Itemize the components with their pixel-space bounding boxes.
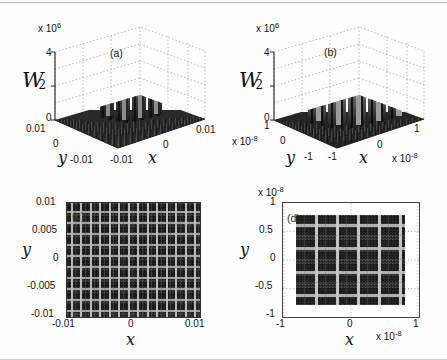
panel-d-y-tick-neg0.5: -0.5 [255,281,272,291]
panel-c-y-tick-neg0.005: -0.005 [27,281,55,291]
panel-a-y-tick-neg0.01: -0.01 [70,155,93,165]
panel-d-y-tick-1: 1 [270,197,276,207]
panel-c-x-axis-label: x [126,332,135,348]
panel-b-x-exponent: x 10-8 [392,152,418,164]
panel-c-density-map [67,203,200,317]
panel-a-plot [0,0,224,180]
panel-c-y-tick-0: 0 [53,253,59,263]
panel-b-y-tick-neg1: -1 [304,152,313,162]
panel-a-y-tick-0.01: 0.01 [26,124,45,134]
panel-d-y-tick-0: 0 [270,253,276,263]
panel-d-axes: (d) [282,202,420,318]
panel-c-y-tick-neg0.01: -0.01 [31,309,54,319]
panel-c: (c) y 0.01 0.005 0 -0.005 -0.01 -0.01 0 … [0,180,224,360]
panel-c-y-tick-0.01: 0.01 [36,197,55,207]
panel-c-y-axis-label: y [22,242,31,258]
panel-d-x-tick-neg1: -1 [276,319,285,329]
panel-c-x-tick-0: 0 [128,319,134,329]
panel-c-x-tick-neg0.01: -0.01 [52,319,75,329]
panel-d: x 10-8 [224,180,447,360]
panel-b-x-axis-label: x [359,150,368,166]
panel-b-y-tick-1: 1 [264,121,270,131]
panel-a-x-axis-label: x [148,150,157,166]
panel-b-x-tick-0: 0 [377,140,383,150]
panel-a-x-tick-0: 0 [163,140,169,150]
panel-d-y-tick-0.5: 0.5 [259,225,273,235]
panel-d-x-tick-1: 1 [413,319,419,329]
panel-b-x-tick-neg1: -1 [328,152,337,162]
panel-a-x-tick-neg0.01: -0.01 [110,155,133,165]
panel-d-density-map [296,215,405,305]
panel-d-y-tick-neg1: -1 [266,309,275,319]
panel-a: x 106 W2 4 0 (a) [0,0,224,180]
panel-c-axes: (c) [66,202,201,318]
figure-canvas: x 106 W2 4 0 (a) [0,0,447,360]
panel-d-y-axis-label: y [240,242,249,258]
panel-b: x 106 W2 4 0 (b) [224,0,447,180]
panel-d-x-exponent: x 10-8 [376,330,402,342]
panel-d-x-axis-label: x [345,332,354,348]
panel-b-y-tick-0: 0 [280,136,286,146]
panel-d-tag: (d) [287,213,300,224]
panel-c-y-tick-0.005: 0.005 [32,225,57,235]
panel-b-x-tick-1: 1 [414,124,420,134]
panel-d-x-tick-0: 0 [347,319,353,329]
panel-a-y-axis-label: y [58,150,67,166]
panel-c-x-tick-0.01: 0.01 [185,319,204,329]
panel-b-y-axis-label: y [286,150,295,166]
panel-a-x-tick-0.01: 0.01 [196,125,215,135]
panel-c-tag: (c) [72,211,84,222]
panel-b-y-exponent: x 10-8 [232,135,258,147]
